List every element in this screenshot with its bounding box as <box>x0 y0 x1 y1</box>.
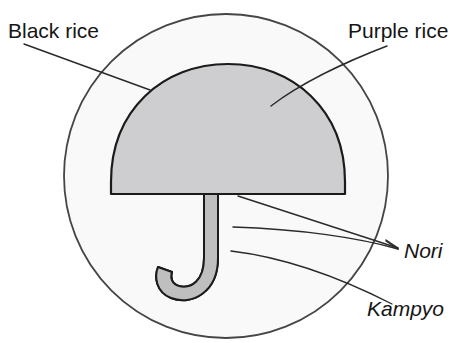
label-nori: Nori <box>404 239 444 262</box>
label-kampyo: Kampyo <box>367 297 444 320</box>
umbrella-sushi-diagram: Black rice Purple rice Nori Kampyo <box>0 0 471 343</box>
figure-root: Black rice Purple rice Nori Kampyo <box>0 0 471 343</box>
label-purple-rice: Purple rice <box>348 19 448 42</box>
label-black-rice: Black rice <box>8 19 99 42</box>
